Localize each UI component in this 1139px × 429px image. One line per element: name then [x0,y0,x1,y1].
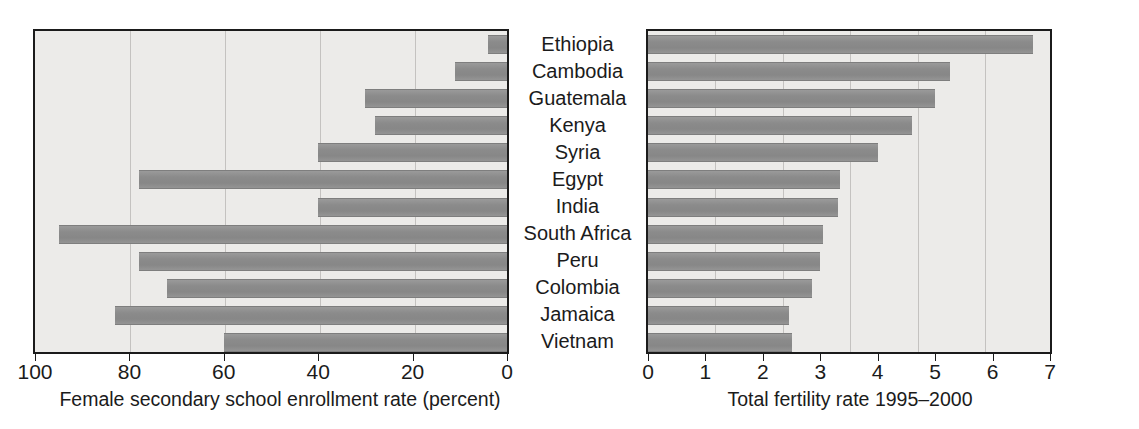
bar-vietnam [224,333,507,352]
axis-tick-label: 60 [212,360,235,384]
bar-peru [648,252,820,271]
axis-tick-label: 80 [118,360,141,384]
bar-row [648,85,1050,112]
bar-ethiopia [648,35,1033,54]
bar-row [648,221,1050,248]
bar-row [35,193,507,220]
bar-row [35,166,507,193]
bar-guatemala [365,89,507,108]
bar-row [648,193,1050,220]
axis-tick-label: 1 [700,360,712,384]
bar-kenya [648,116,912,135]
bar-row [35,329,507,354]
category-label: Ethiopia [512,30,643,57]
bar-cambodia [648,62,950,81]
right-bar-rows [648,31,1050,352]
bar-india [648,198,838,217]
category-label: Colombia [512,273,643,300]
bar-row [35,31,507,58]
bar-row [35,139,507,166]
axis-tick-label: 7 [1044,360,1056,384]
bar-cambodia [455,62,507,81]
bar-row [35,302,507,329]
axis-tick-label: 40 [307,360,330,384]
bar-row [648,248,1050,275]
bar-vietnam [648,333,792,352]
category-label-column: EthiopiaCambodiaGuatemalaKenyaSyriaEgypt… [512,29,643,354]
bar-jamaica [115,306,507,325]
axis-tick-label: 100 [17,360,52,384]
axis-tick-label: 4 [872,360,884,384]
bar-egypt [648,170,840,189]
axis-tick-label: 6 [987,360,999,384]
bar-row [35,275,507,302]
bar-ethiopia [488,35,507,54]
category-label: Kenya [512,111,643,138]
right-plot-area [646,29,1052,354]
bar-row [648,112,1050,139]
category-label: Vietnam [512,327,643,354]
bar-row [35,248,507,275]
bar-row [648,329,1050,354]
axis-tick-label: 2 [757,360,769,384]
paired-bar-chart-figure: 100806040200 Female secondary school enr… [0,0,1139,429]
left-axis-title: Female secondary school enrollment rate … [0,388,560,410]
category-label: India [512,192,643,219]
bar-row [35,58,507,85]
bar-south-africa [648,225,823,244]
category-label: Syria [512,138,643,165]
bar-row [648,31,1050,58]
bar-india [318,198,507,217]
left-plot-area [33,29,509,354]
bar-south-africa [59,225,507,244]
category-label: Jamaica [512,300,643,327]
right-x-axis: 01234567 [646,354,1052,384]
category-label: Peru [512,246,643,273]
right-axis-title: Total fertility rate 1995–2000 [620,388,1080,410]
axis-tick-label: 20 [401,360,424,384]
bar-row [648,58,1050,85]
axis-tick-label: 0 [642,360,654,384]
bar-syria [648,143,878,162]
left-x-axis: 100806040200 [33,354,509,384]
bar-jamaica [648,306,789,325]
bar-colombia [167,279,507,298]
bar-row [35,112,507,139]
bar-colombia [648,279,812,298]
bar-row [648,166,1050,193]
bar-kenya [375,116,507,135]
bar-row [648,275,1050,302]
category-label: Guatemala [512,84,643,111]
bar-row [35,221,507,248]
axis-tick-label: 0 [501,360,513,384]
category-label: Egypt [512,165,643,192]
bar-egypt [139,170,507,189]
axis-tick-label: 5 [929,360,941,384]
category-label: Cambodia [512,57,643,84]
bar-syria [318,143,507,162]
left-bar-rows [35,31,507,352]
bar-row [648,302,1050,329]
bar-row [648,139,1050,166]
bar-row [35,85,507,112]
category-label: South Africa [512,219,643,246]
bar-peru [139,252,507,271]
bar-guatemala [648,89,935,108]
axis-tick-label: 3 [814,360,826,384]
